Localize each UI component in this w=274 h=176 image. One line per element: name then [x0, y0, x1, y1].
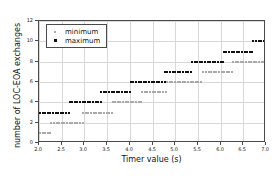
y-axis-tick — [35, 20, 38, 21]
data-point — [260, 40, 262, 42]
data-point — [233, 51, 235, 53]
data-point — [153, 81, 155, 83]
data-point — [122, 101, 124, 103]
data-point — [242, 61, 244, 63]
data-point — [87, 112, 89, 114]
data-point — [228, 71, 230, 73]
data-point — [225, 51, 227, 53]
data-point — [52, 112, 54, 114]
legend-entry-maximum: maximum — [50, 36, 100, 45]
y-axis-tick — [35, 61, 38, 62]
data-point — [50, 122, 52, 124]
y-axis-tick — [35, 101, 38, 102]
data-point — [82, 122, 84, 124]
data-point — [66, 122, 68, 124]
data-point — [214, 61, 216, 63]
data-point — [100, 112, 102, 114]
gridline-horizontal — [39, 62, 264, 63]
data-point — [121, 91, 123, 93]
data-point — [209, 61, 211, 63]
data-point — [171, 81, 173, 83]
data-point — [89, 101, 91, 103]
data-point — [187, 81, 189, 83]
data-point — [192, 81, 194, 83]
data-point — [191, 61, 193, 63]
y-axis-tick-label: 10 — [27, 37, 33, 43]
data-point — [114, 101, 116, 103]
data-point — [205, 71, 207, 73]
data-point — [252, 40, 254, 42]
y-axis-tick — [35, 81, 38, 82]
x-axis-tick-label: 2.0 — [34, 146, 42, 152]
data-point — [108, 112, 110, 114]
data-point — [210, 71, 212, 73]
data-point — [165, 91, 167, 93]
data-point — [159, 91, 161, 93]
data-point — [100, 101, 102, 103]
data-point — [132, 81, 134, 83]
data-point — [71, 101, 73, 103]
data-point — [158, 81, 160, 83]
legend-label-maximum: maximum — [65, 37, 100, 45]
data-point — [190, 71, 192, 73]
data-point — [232, 61, 234, 63]
data-point — [263, 40, 265, 42]
data-point — [162, 91, 164, 93]
data-point — [97, 101, 99, 103]
x-axis-tick — [61, 142, 62, 145]
y-axis-title: number of LOC-EOA exchanges — [13, 21, 22, 151]
data-point — [258, 61, 260, 63]
x-axis-tick — [129, 142, 130, 145]
data-point — [79, 101, 81, 103]
data-point — [196, 61, 198, 63]
x-axis-tick — [220, 142, 221, 145]
data-point — [146, 91, 148, 93]
data-point — [135, 81, 137, 83]
y-axis-tick-label: 4 — [30, 98, 33, 104]
data-point — [132, 101, 134, 103]
y-axis-tick-label: 12 — [27, 17, 33, 23]
x-axis-tick-label: 5.5 — [193, 146, 201, 152]
data-point — [108, 91, 110, 93]
data-point — [237, 61, 239, 63]
x-axis-tick — [265, 142, 266, 145]
y-axis-tick — [35, 142, 38, 143]
y-axis-tick — [35, 122, 38, 123]
x-axis-tick-label: 7.0 — [261, 146, 269, 152]
x-axis-tick — [152, 142, 153, 145]
data-point — [129, 91, 131, 93]
data-point — [103, 112, 105, 114]
legend-entry-minimum: minimum — [50, 27, 100, 36]
legend-label-minimum: minimum — [65, 28, 98, 36]
data-point — [182, 71, 184, 73]
data-point — [68, 112, 70, 114]
x-axis-tick-label: 6.5 — [238, 146, 246, 152]
data-point — [149, 91, 151, 93]
data-point — [141, 91, 143, 93]
data-point — [223, 71, 225, 73]
data-point — [187, 71, 189, 73]
data-point — [95, 112, 97, 114]
data-point — [200, 81, 202, 83]
y-axis-tick-label: 6 — [30, 78, 33, 84]
x-axis-tick — [197, 142, 198, 145]
data-point — [100, 91, 102, 93]
data-point — [39, 132, 41, 134]
data-point — [119, 101, 121, 103]
data-point — [76, 122, 78, 124]
data-point — [228, 51, 230, 53]
data-point — [71, 122, 73, 124]
data-point — [250, 61, 252, 63]
data-point — [44, 132, 46, 134]
data-point — [179, 81, 181, 83]
data-point — [140, 81, 142, 83]
data-point — [53, 122, 55, 124]
x-axis-tick-label: 3.5 — [102, 146, 110, 152]
data-point — [65, 112, 67, 114]
data-point — [49, 112, 51, 114]
data-point — [161, 81, 163, 83]
data-point — [215, 71, 217, 73]
data-point — [238, 51, 240, 53]
data-point — [140, 101, 142, 103]
data-point — [201, 61, 203, 63]
